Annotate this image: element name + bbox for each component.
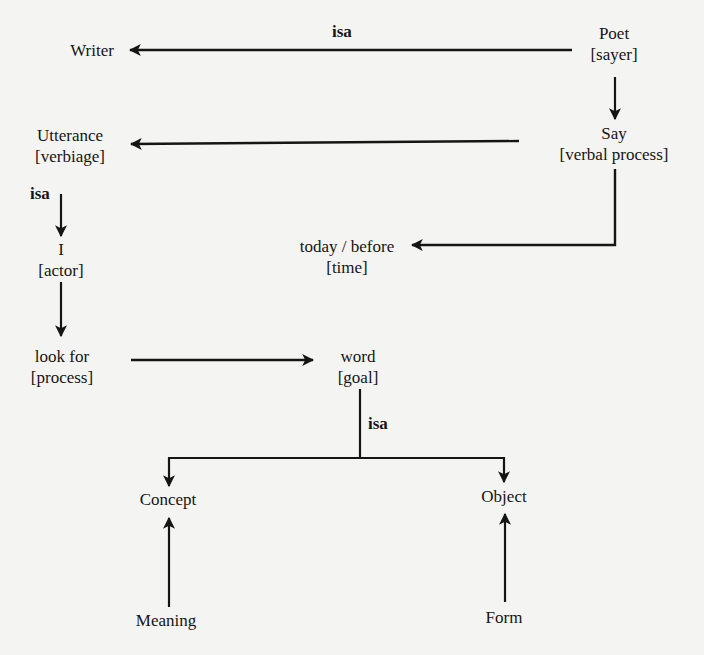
node-say-text: Say — [559, 123, 668, 144]
node-poet: Poet [sayer] — [590, 23, 637, 65]
node-lookfor: look for [process] — [31, 346, 93, 388]
node-form: Form — [486, 607, 523, 628]
edge-label-utterance-i: isa — [30, 184, 50, 204]
node-form-text: Form — [486, 608, 523, 627]
edge-word-object — [360, 458, 504, 482]
node-concept: Concept — [140, 489, 197, 510]
edge-say-today — [412, 169, 615, 245]
node-utterance-role: [verbiage] — [35, 146, 105, 167]
node-word-role: [goal] — [338, 367, 379, 388]
node-poet-text: Poet — [590, 23, 637, 44]
edge-label-poet-writer: isa — [332, 22, 352, 42]
node-i-role: [actor] — [38, 260, 83, 281]
node-meaning: Meaning — [136, 610, 196, 631]
node-word-text: word — [338, 346, 379, 367]
node-say-role: [verbal process] — [559, 144, 668, 165]
node-today-role: [time] — [300, 257, 394, 278]
node-writer-text: Writer — [70, 41, 114, 60]
node-i: I [actor] — [38, 239, 83, 281]
edge-say-utterance — [131, 141, 519, 144]
node-poet-role: [sayer] — [590, 44, 637, 65]
node-object: Object — [481, 486, 526, 507]
node-word: word [goal] — [338, 346, 379, 388]
node-today: today / before [time] — [300, 236, 394, 278]
node-say: Say [verbal process] — [559, 123, 668, 165]
node-utterance-text: Utterance — [35, 125, 105, 146]
node-lookfor-text: look for — [31, 346, 93, 367]
diagram-edges — [0, 0, 704, 655]
semantic-network-diagram: Writer Poet [sayer] Say [verbal process]… — [0, 0, 704, 655]
node-lookfor-role: [process] — [31, 367, 93, 388]
node-concept-text: Concept — [140, 490, 197, 509]
node-meaning-text: Meaning — [136, 611, 196, 630]
edge-word-concept — [169, 458, 360, 486]
node-object-text: Object — [481, 487, 526, 506]
node-utterance: Utterance [verbiage] — [35, 125, 105, 167]
node-i-text: I — [38, 239, 83, 260]
edge-label-word-split: isa — [368, 414, 388, 434]
node-today-text: today / before — [300, 236, 394, 257]
node-writer: Writer — [70, 40, 114, 61]
